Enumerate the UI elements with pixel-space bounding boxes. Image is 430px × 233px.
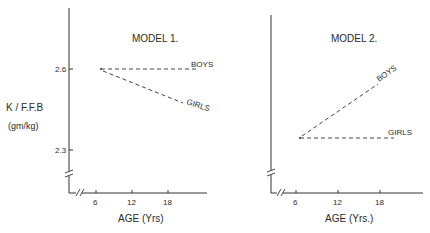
model-2-xtick-6: 6: [293, 198, 298, 207]
model-2-boys-line: [302, 84, 378, 136]
model-2-x-axis-label: AGE (Yrs.): [325, 213, 373, 224]
model-1-girls-label: GIRLS: [185, 97, 211, 113]
model-2-xtick-12: 12: [333, 198, 342, 207]
model-1-panel: MODEL 1. 2.6 2.3 6 12 18 AGE (Yrs) BO: [55, 8, 213, 224]
model-1-x-axis-label: AGE (Yrs): [118, 213, 164, 224]
model-1-girls-line: [103, 71, 183, 103]
model-1-ytick-2.6: 2.6: [55, 65, 67, 74]
model-2-girls-label: GIRLS: [388, 128, 412, 137]
model-1-xtick-18: 18: [163, 198, 172, 207]
model-2-title: MODEL 2.: [331, 33, 377, 44]
model-2-xtick-18: 18: [375, 198, 384, 207]
model-1-title: MODEL 1.: [132, 33, 178, 44]
model-1-xtick-6: 6: [93, 198, 98, 207]
y-axis-label: K / F.F.B: [6, 102, 44, 113]
model-2-boys-label: BOYS: [375, 64, 398, 84]
model-1-xtick-12: 12: [127, 198, 136, 207]
model-1-y-axis-break-icon: [65, 170, 73, 177]
model-2-panel: MODEL 2. 6 12 18 AGE (Yrs.) GIRLS BOYS: [267, 15, 423, 224]
figure: K / F.F.B (gm/kg) MODEL 1. 2.6 2.3 6 12 …: [0, 0, 430, 233]
model-2-y-axis-break-icon: [267, 169, 275, 176]
y-axis-units: (gm/kg): [8, 121, 39, 131]
model-1-ytick-2.3: 2.3: [55, 146, 67, 155]
model-1-boys-label: BOYS: [191, 60, 213, 69]
